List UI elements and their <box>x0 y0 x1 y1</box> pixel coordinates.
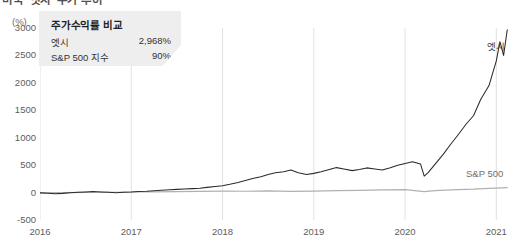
y-axis-tick-label: 2500 <box>2 50 36 60</box>
x-axis-tick-label: 2017 <box>121 226 142 237</box>
callout-row-label: S&P 500 지수 <box>51 50 109 64</box>
x-axis-tick-label: 2020 <box>394 226 415 237</box>
x-axis: 201620172018201920202021 <box>0 224 515 244</box>
callout-title: 주가수익률 비교 <box>51 17 122 32</box>
series-label-sp500: S&P 500 <box>466 168 503 179</box>
y-axis-tick-label: 1000 <box>2 133 36 143</box>
y-axis-tick-label: 1500 <box>2 105 36 115</box>
x-axis-tick-label: 2019 <box>303 226 324 237</box>
callout-row-label: 엣시 <box>51 35 69 49</box>
x-axis-tick-label: 2018 <box>212 226 233 237</box>
comparison-callout-box: 주가수익률 비교 엣시 2,968% S&P 500 지수 90% <box>39 11 181 66</box>
y-axis-tick-label: 0 <box>2 188 36 198</box>
series-label-etsy: 엣시 <box>487 39 505 53</box>
y-axis-tick-label: 2000 <box>2 78 36 88</box>
y-axis-tick-label: 500 <box>2 160 36 170</box>
chart-screenshot: 미국 ‘엣시’ 주가 추이 (%) 3000250020001500100050… <box>0 0 515 248</box>
callout-row-value: 90% <box>152 50 171 61</box>
y-axis: 300025002000150010005000-500 <box>0 0 36 248</box>
callout-row-value: 2,968% <box>139 35 171 46</box>
y-axis-tick-label: 3000 <box>2 23 36 33</box>
x-axis-tick-label: 2016 <box>29 226 50 237</box>
x-axis-tick-label: 2021 <box>486 226 507 237</box>
